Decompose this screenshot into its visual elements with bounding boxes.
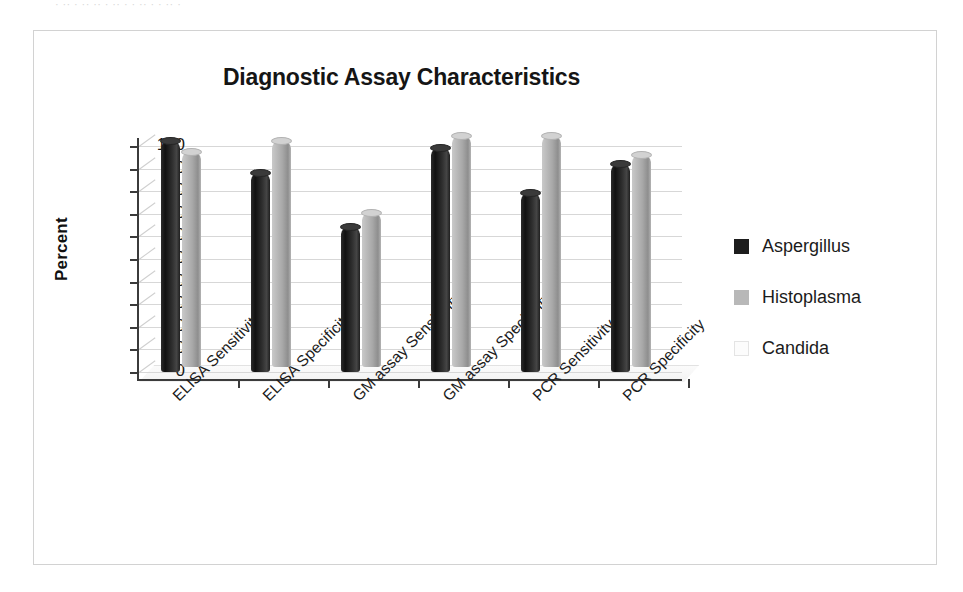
x-axis-tick <box>688 379 690 388</box>
bar-top-cap <box>430 144 451 152</box>
legend-swatch-icon <box>734 290 749 305</box>
bar-histoplasma-4 <box>542 136 561 367</box>
bar-aspergillus-0 <box>161 141 180 372</box>
legend-item-candida[interactable]: Candida <box>734 338 861 359</box>
bar-top-cap <box>271 137 292 145</box>
bar-histoplasma-0 <box>182 152 201 367</box>
y-axis-tick <box>130 372 139 374</box>
bar-top-cap <box>541 132 562 140</box>
bar-top-cap <box>520 189 541 197</box>
bar-aspergillus-4 <box>521 193 540 372</box>
bar-top-cap <box>451 132 472 140</box>
legend-label: Histoplasma <box>762 287 861 308</box>
bar-histoplasma-1 <box>272 141 291 367</box>
bar-top-cap <box>610 160 631 168</box>
chart-legend: AspergillusHistoplasmaCandida <box>734 236 861 389</box>
x-axis-tick <box>328 379 330 388</box>
bar-top-cap <box>631 151 652 159</box>
bar-top-cap <box>160 137 181 145</box>
bar-histoplasma-2 <box>362 213 381 367</box>
legend-label: Aspergillus <box>762 236 850 257</box>
gridline <box>139 372 682 373</box>
bar-top-cap <box>340 223 361 231</box>
legend-item-aspergillus[interactable]: Aspergillus <box>734 236 861 257</box>
bar-aspergillus-3 <box>431 148 450 372</box>
legend-swatch-icon <box>734 341 749 356</box>
y-axis-title: Percent <box>52 217 72 281</box>
bar-top-cap <box>250 169 271 177</box>
bar-aspergillus-2 <box>341 227 360 372</box>
bar-histoplasma-5 <box>632 155 651 367</box>
bar-aspergillus-5 <box>611 164 630 372</box>
x-axis-line <box>137 379 682 381</box>
bar-top-cap <box>181 148 202 156</box>
bar-histoplasma-3 <box>452 136 471 367</box>
x-axis-tick <box>598 379 600 388</box>
x-axis-tick <box>238 379 240 388</box>
bar-aspergillus-1 <box>251 173 270 372</box>
legend-swatch-icon <box>734 239 749 254</box>
x-axis-tick <box>508 379 510 388</box>
bar-top-cap <box>361 209 382 217</box>
legend-label: Candida <box>762 338 829 359</box>
chart-title: Diagnostic Assay Characteristics <box>34 64 769 91</box>
chart-frame: Diagnostic Assay Characteristics Percent… <box>33 30 937 565</box>
x-axis-tick <box>418 379 420 388</box>
legend-item-histoplasma[interactable]: Histoplasma <box>734 287 861 308</box>
page-text-fragment: · ·· · ·· ·· · ·· · · ·· · · ·· · <box>0 0 963 14</box>
